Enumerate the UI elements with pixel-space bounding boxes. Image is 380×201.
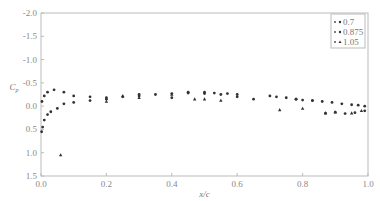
data-point (360, 109, 363, 112)
y-tick-label: -1.5 (23, 31, 38, 41)
data-point (203, 91, 206, 94)
data-point (41, 126, 44, 129)
data-point (236, 93, 239, 96)
legend-entry: 1.05 (343, 37, 359, 47)
data-point (170, 96, 173, 99)
data-point (72, 101, 75, 104)
data-point (105, 96, 108, 99)
data-point (154, 93, 157, 96)
x-tick-label: 0.4 (166, 179, 178, 189)
data-point (301, 107, 304, 110)
data-point (138, 93, 141, 96)
data-point (357, 104, 360, 107)
data-point (219, 93, 222, 96)
data-point (59, 153, 62, 156)
y-tick-label: -2.0 (23, 8, 38, 18)
y-tick-label: 1.0 (26, 148, 38, 158)
y-tick-label: -0.5 (23, 78, 38, 88)
data-point (285, 96, 288, 99)
y-tick-label: 0.0 (26, 101, 38, 111)
data-point (53, 88, 56, 91)
data-point (43, 94, 46, 97)
data-point (56, 107, 59, 110)
legend-entry: 0.7 (343, 17, 355, 27)
data-point (193, 97, 196, 100)
data-point (354, 111, 357, 114)
data-point (295, 98, 298, 101)
data-point (187, 91, 190, 94)
data-point (363, 109, 366, 112)
data-point (340, 102, 343, 105)
data-point (350, 111, 353, 114)
y-axis-label: Cp (9, 82, 18, 93)
data-point (121, 94, 124, 97)
legend: 0.70.8751.05 (331, 14, 365, 48)
data-point (203, 97, 206, 100)
data-point (344, 112, 347, 115)
data-point (311, 99, 314, 102)
x-tick-label: 0.2 (101, 179, 112, 189)
cp-scatter-chart: 0.00.20.40.60.81.0-2.0-1.5-1.0-0.50.00.5… (0, 0, 380, 201)
data-point (331, 101, 334, 104)
x-axis-label: x/c (198, 189, 210, 199)
data-point (363, 105, 366, 108)
data-point (269, 94, 272, 97)
data-point (62, 91, 65, 94)
data-point (321, 100, 324, 103)
data-point (72, 94, 75, 97)
data-point (89, 99, 92, 102)
data-point (41, 100, 44, 103)
data-point (252, 98, 255, 101)
x-tick-label: 0.8 (297, 179, 309, 189)
data-point (89, 95, 92, 98)
data-point (43, 119, 46, 122)
data-point (301, 99, 304, 102)
data-point (62, 102, 65, 105)
data-point (278, 108, 281, 111)
data-point (275, 95, 278, 98)
data-point (226, 92, 229, 95)
y-tick-label: -1.0 (23, 55, 38, 65)
x-tick-label: 1.0 (362, 179, 374, 189)
y-tick-label: 0.5 (26, 124, 38, 134)
data-point (49, 110, 52, 113)
data-points (40, 88, 366, 156)
data-point (219, 99, 222, 102)
data-point (46, 91, 49, 94)
data-point (350, 103, 353, 106)
x-tick-label: 0.0 (35, 179, 47, 189)
data-point (46, 113, 49, 116)
data-point (213, 92, 216, 95)
data-point (40, 130, 43, 133)
legend-entry: 0.875 (343, 27, 364, 37)
x-tick-label: 0.6 (232, 179, 244, 189)
y-tick-label: 1.5 (26, 171, 38, 181)
data-point (105, 100, 108, 103)
